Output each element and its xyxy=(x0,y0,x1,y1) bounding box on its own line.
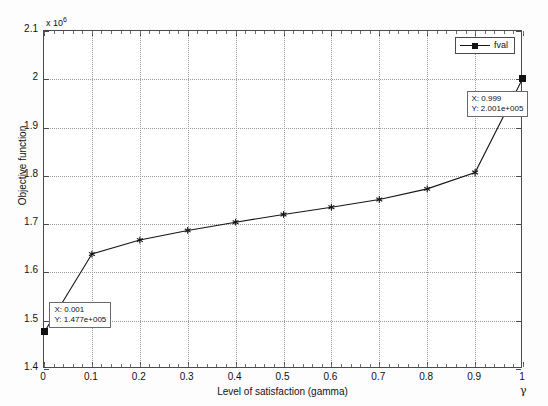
x-tick-label: 0.9 xyxy=(454,371,494,382)
y-tick-label: 2.1 xyxy=(6,23,38,34)
datatip-right-endpoint[interactable]: X: 0.999 Y: 2.001e+005 xyxy=(467,91,529,117)
legend-label-fval: fval xyxy=(494,41,508,50)
y-axis-exponent-value: 6 xyxy=(63,16,67,23)
legend[interactable]: fval xyxy=(455,37,515,54)
axis-minor-tick-x xyxy=(523,364,524,367)
x-tick-label: 0.6 xyxy=(310,371,350,382)
x-tick-label: 0.2 xyxy=(119,371,159,382)
series-fval xyxy=(44,31,523,369)
datatip-right-x: X: 0.999 xyxy=(472,94,524,104)
x-tick-label: 1 xyxy=(502,371,542,382)
y-tick-label: 1.5 xyxy=(6,313,38,324)
selected-data-point-marker[interactable] xyxy=(519,75,526,82)
axis-tick-y xyxy=(44,369,49,370)
legend-line-sample xyxy=(460,42,490,50)
y-tick-label: 1.4 xyxy=(6,361,38,372)
datatip-right-y: Y: 2.001e+005 xyxy=(472,104,524,114)
x-tick-label: 0 xyxy=(23,371,63,382)
axis-tick-y xyxy=(516,369,521,370)
x-tick-label: 0.5 xyxy=(263,371,303,382)
gamma-symbol: γ xyxy=(520,384,527,397)
x-tick-label: 0.7 xyxy=(358,371,398,382)
figure-canvas: x 106 Objective function X: 0.001 Y: 1.4… xyxy=(0,0,548,406)
y-axis-exponent: x 106 xyxy=(46,16,67,28)
datatip-left-endpoint[interactable]: X: 0.001 Y: 1.477e+005 xyxy=(49,302,111,328)
y-axis-exponent-prefix: x 10 xyxy=(46,18,63,28)
y-tick-label: 1.6 xyxy=(6,264,38,275)
axis-minor-tick-x xyxy=(523,31,524,34)
y-tick-label: 1.8 xyxy=(6,168,38,179)
x-axis-title: Level of satisfaction (gamma) xyxy=(43,386,522,397)
x-tick-label: 0.8 xyxy=(406,371,446,382)
data-point-marker[interactable] xyxy=(472,169,478,176)
selected-data-point-marker[interactable] xyxy=(41,328,48,335)
x-tick-label: 0.4 xyxy=(215,371,255,382)
datatip-left-x: X: 0.001 xyxy=(54,305,106,315)
y-axis-title: Objective function xyxy=(17,96,28,236)
series-line-fval xyxy=(44,79,522,332)
datatip-left-y: Y: 1.477e+005 xyxy=(54,315,106,325)
x-tick-label: 0.1 xyxy=(71,371,111,382)
plot-area: X: 0.001 Y: 1.477e+005 X: 0.999 Y: 2.001… xyxy=(43,30,522,368)
y-tick-label: 2 xyxy=(6,71,38,82)
x-tick-label: 0.3 xyxy=(167,371,207,382)
y-tick-label: 1.7 xyxy=(6,216,38,227)
y-tick-label: 1.9 xyxy=(6,120,38,131)
